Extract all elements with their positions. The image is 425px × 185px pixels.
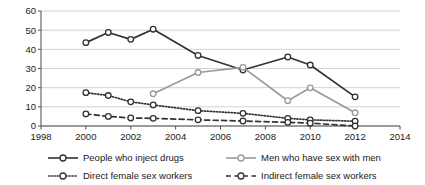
data-point	[285, 98, 291, 104]
x-tick-label-1998: 1998	[30, 131, 51, 142]
legend-item-msm[interactable]: Men who have sex with men	[226, 149, 408, 167]
line-chart: 0102030405060199820002002200420062008201…	[0, 0, 425, 185]
data-point	[106, 30, 112, 36]
legend-key-msm	[226, 152, 256, 164]
legend-key-pwid	[48, 152, 78, 164]
x-tick-label-2012: 2012	[345, 131, 366, 142]
data-point	[106, 114, 112, 120]
legend-label-msm: Men who have sex with men	[261, 153, 381, 163]
data-point	[195, 53, 201, 59]
x-tick-label-2004: 2004	[165, 131, 186, 142]
data-point	[195, 70, 201, 76]
data-point	[128, 115, 134, 121]
y-tick-label-20: 20	[25, 82, 36, 93]
x-tick-label-2006: 2006	[210, 131, 231, 142]
data-point	[106, 93, 112, 99]
series-line-1	[153, 67, 355, 112]
data-point	[307, 85, 313, 91]
data-point	[195, 117, 201, 123]
legend-label-pwid: People who inject drugs	[83, 153, 184, 163]
data-point	[83, 40, 89, 46]
legend-label-indirect-fsw: Indirect female sex workers	[261, 171, 377, 181]
data-point	[83, 111, 89, 117]
x-tick-label-2000: 2000	[75, 131, 96, 142]
data-point	[150, 91, 156, 97]
y-tick-label-50: 50	[25, 25, 36, 36]
legend-label-direct-fsw: Direct female sex workers	[83, 171, 192, 181]
data-point	[240, 65, 246, 71]
data-point	[128, 99, 134, 105]
data-point	[307, 120, 313, 126]
data-point	[83, 90, 89, 96]
series-line-0	[86, 29, 355, 97]
chart-legend: People who inject drugs Men who have sex…	[48, 149, 408, 185]
x-tick-label-2014: 2014	[389, 131, 410, 142]
y-tick-label-60: 60	[25, 5, 36, 16]
legend-key-direct-fsw	[48, 170, 78, 182]
data-point	[352, 94, 358, 100]
data-point	[150, 102, 156, 108]
data-point	[240, 118, 246, 124]
legend-item-direct-fsw[interactable]: Direct female sex workers	[48, 167, 226, 185]
y-tick-label-30: 30	[25, 63, 36, 74]
legend-item-pwid[interactable]: People who inject drugs	[48, 149, 226, 167]
data-point	[352, 123, 358, 129]
x-tick-label-2008: 2008	[255, 131, 276, 142]
data-point	[150, 26, 156, 32]
data-point	[285, 120, 291, 126]
y-tick-label-40: 40	[25, 44, 36, 55]
y-tick-label-10: 10	[25, 101, 36, 112]
legend-item-indirect-fsw[interactable]: Indirect female sex workers	[226, 167, 408, 185]
data-point	[240, 111, 246, 117]
data-point	[307, 62, 313, 68]
data-point	[128, 37, 134, 43]
data-point	[352, 110, 358, 116]
x-tick-label-2002: 2002	[120, 131, 141, 142]
data-point	[285, 54, 291, 60]
data-point	[150, 116, 156, 122]
x-tick-label-2010: 2010	[300, 131, 321, 142]
series-0	[83, 26, 358, 99]
legend-key-indirect-fsw	[226, 170, 256, 182]
data-point	[195, 108, 201, 114]
